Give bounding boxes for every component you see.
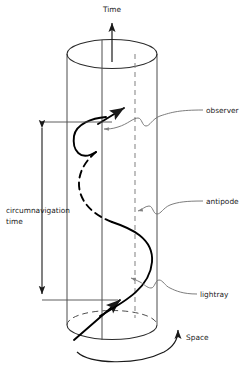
lightray-hidden-segment bbox=[79, 152, 112, 222]
lightray-label: lightray bbox=[200, 290, 229, 299]
lightray-helix bbox=[74, 108, 152, 340]
lightray-front-lower-arc bbox=[100, 222, 152, 316]
measure-label-line2: time bbox=[6, 217, 23, 226]
antipode-leader-line bbox=[138, 201, 203, 214]
observer-label: observer bbox=[206, 106, 240, 115]
antipode-label: antipode bbox=[206, 197, 239, 206]
circumnavigation-time-measure: circumnavigation time bbox=[6, 122, 118, 300]
measure-label-line1: circumnavigation bbox=[6, 206, 70, 215]
rotation-arrow-icon bbox=[77, 330, 178, 362]
time-axis: Time bbox=[102, 5, 122, 62]
lightray-lower-segment bbox=[74, 300, 120, 340]
diagram-canvas: Time circumnavigation time bbox=[0, 0, 245, 382]
space-axis-label: Space bbox=[186, 333, 209, 342]
callout-observer: observer bbox=[104, 106, 240, 129]
space-axis: Space bbox=[77, 330, 209, 362]
spacetime-cylinder-figure: Time circumnavigation time bbox=[0, 0, 245, 382]
time-axis-label: Time bbox=[102, 5, 122, 14]
cylinder-bottom-ellipse-front bbox=[67, 325, 157, 340]
cylinder-bottom-ellipse-back bbox=[67, 311, 157, 326]
callout-antipode: antipode bbox=[138, 197, 239, 214]
observer-leader-line bbox=[104, 110, 203, 129]
